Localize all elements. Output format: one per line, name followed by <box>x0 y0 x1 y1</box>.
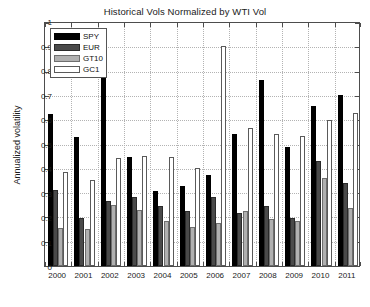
x-axis-tick-mark <box>71 262 72 266</box>
legend-label: EUR <box>83 43 100 52</box>
gridline-vertical <box>282 23 283 266</box>
gridline-vertical <box>150 23 151 266</box>
y-tick-label: 0.5 <box>12 140 52 149</box>
legend-swatch-icon <box>54 66 80 73</box>
gridline-vertical <box>177 23 178 266</box>
x-axis-tick-mark <box>256 262 257 266</box>
legend-label: GC1 <box>83 65 99 74</box>
x-axis-tick-mark <box>229 23 230 27</box>
gridline-horizontal <box>45 96 359 97</box>
x-axis-tick-mark <box>229 262 230 266</box>
x-axis-tick-mark <box>308 23 309 27</box>
legend-item-eur[interactable]: EUR <box>54 42 103 53</box>
bar-gc1-2002 <box>116 158 121 266</box>
bar-gc1-2001 <box>90 180 95 266</box>
y-tick-label: 0.2 <box>12 214 52 223</box>
legend-swatch-icon <box>54 55 80 62</box>
legend-item-spy[interactable]: SPY <box>54 31 103 42</box>
x-axis-tick-mark <box>71 23 72 27</box>
y-tick-label: 0.7 <box>12 91 52 100</box>
x-axis-tick-mark <box>282 23 283 27</box>
bar-gc1-2004 <box>169 157 174 266</box>
chart-figure: Historical Vols Normalized by WTI Vol An… <box>0 0 370 307</box>
y-tick-label: 0.6 <box>12 116 52 125</box>
x-axis-tick-mark <box>124 262 125 266</box>
bar-gc1-2008 <box>274 134 279 266</box>
x-axis-tick-mark <box>256 23 257 27</box>
y-axis-tick-mark <box>355 266 359 267</box>
x-axis-tick-mark <box>124 23 125 27</box>
y-tick-label: 0.9 <box>12 42 52 51</box>
x-axis-tick-mark <box>150 262 151 266</box>
y-axis-tick-mark <box>355 96 359 97</box>
x-axis-tick-mark <box>335 262 336 266</box>
bar-gc1-2006 <box>221 46 226 267</box>
x-axis-tick-mark <box>98 262 99 266</box>
x-axis-tick-mark <box>177 23 178 27</box>
gridline-vertical <box>335 23 336 266</box>
x-axis-tick-mark <box>150 23 151 27</box>
legend-swatch-icon <box>54 44 80 51</box>
gridline-vertical <box>203 23 204 266</box>
gridline-vertical <box>308 23 309 266</box>
y-axis-tick-mark <box>355 72 359 73</box>
x-axis-tick-mark <box>335 23 336 27</box>
x-axis-tick-mark <box>308 262 309 266</box>
bar-gc1-2011 <box>353 113 358 266</box>
bar-gc1-2000 <box>63 172 68 266</box>
x-axis-tick-mark <box>360 23 361 27</box>
bar-gc1-2010 <box>327 120 332 266</box>
x-axis-tick-mark <box>282 262 283 266</box>
bar-gc1-2007 <box>248 128 253 266</box>
x-axis-tick-mark <box>177 262 178 266</box>
gridline-vertical <box>229 23 230 266</box>
legend-label: SPY <box>83 32 99 41</box>
bar-gc1-2003 <box>142 156 147 266</box>
gridline-vertical <box>124 23 125 266</box>
x-axis-tick-mark <box>98 23 99 27</box>
y-tick-label: 0.8 <box>12 67 52 76</box>
legend-item-gt10[interactable]: GT10 <box>54 53 103 64</box>
legend-label: GT10 <box>83 54 103 63</box>
x-axis-tick-mark <box>203 23 204 27</box>
x-tick-label-2011: 2011 <box>327 271 367 280</box>
bar-gc1-2005 <box>195 168 200 266</box>
chart-legend: SPYEURGT10GC1 <box>50 28 107 78</box>
y-axis-tick-mark <box>355 23 359 24</box>
chart-title: Historical Vols Normalized by WTI Vol <box>0 6 370 17</box>
bar-gc1-2009 <box>300 136 305 266</box>
legend-item-gc1[interactable]: GC1 <box>54 64 103 75</box>
y-tick-label: 0.3 <box>12 189 52 198</box>
y-tick-label: 1 <box>12 18 52 27</box>
legend-swatch-icon <box>54 33 80 40</box>
x-axis-tick-mark <box>360 262 361 266</box>
y-axis-tick-mark <box>355 47 359 48</box>
gridline-vertical <box>256 23 257 266</box>
y-tick-label: 0.4 <box>12 165 52 174</box>
x-axis-tick-mark <box>203 262 204 266</box>
y-tick-label: 0.1 <box>12 238 52 247</box>
